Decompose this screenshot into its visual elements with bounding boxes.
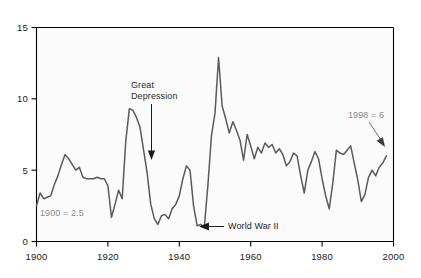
x-axis-tick-label-2000: 2000 [369,251,419,262]
x-axis-tick-label-1940: 1940 [154,251,204,262]
annotation-world-war-ii: World War II [228,221,279,232]
annotation-great-depression: Great Depression [131,80,178,102]
y-axis-tick-label-15: 15 [6,22,28,33]
x-axis-tick-label-1980: 1980 [297,251,347,262]
y-axis-tick-label-0: 0 [6,236,28,247]
x-axis-tick-label-1960: 1960 [226,251,276,262]
x-axis-tick-label-1920: 1920 [83,251,133,262]
annotation-start-value: 1900 = 2.5 [40,208,84,219]
great-depression-line-1: Great [131,80,154,90]
y-axis-tick-label-10: 10 [6,93,28,104]
y-axis-tick-label-5: 5 [6,165,28,176]
x-axis-tick-label-1900: 1900 [12,251,62,262]
line-chart-plot [0,0,421,278]
chart-figure: 0 5 10 15 1900 1920 1940 1960 1980 2000 … [0,0,421,278]
great-depression-line-2: Depression [131,91,178,102]
y-axis-ticks [32,28,37,242]
annotation-end-value: 1998 = 6 [348,110,384,121]
plot-background [37,28,394,242]
x-axis-ticks [37,242,394,247]
